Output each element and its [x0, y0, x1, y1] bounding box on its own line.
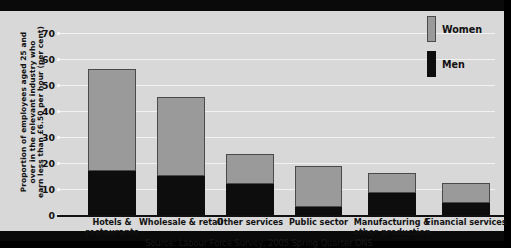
- bar-segment-women: [295, 166, 342, 208]
- chart-panel: Proportion of employees aged 25 and over…: [0, 11, 504, 231]
- source-note: Source: Labour Force Survey, 2005 Spring…: [0, 238, 504, 248]
- y-axis-tick-label: 10: [33, 185, 55, 194]
- y-axis-tick-dot: [57, 32, 60, 35]
- bar-segment-men: [295, 207, 342, 215]
- y-axis-tick-label: 30: [33, 133, 55, 142]
- legend-item-women: Women: [427, 16, 503, 42]
- legend-label-women: Women: [442, 24, 482, 35]
- bar-segment-men: [157, 176, 205, 215]
- source-note-text: Source: Labour Force Survey, 2005 Spring…: [131, 238, 372, 248]
- bar-1: [88, 69, 136, 215]
- y-axis-tick-dot: [57, 58, 60, 61]
- bar-segment-men: [442, 203, 490, 215]
- y-axis-tick-dot: [57, 110, 60, 113]
- bar-segment-men: [88, 171, 136, 215]
- bar-5: [368, 173, 416, 215]
- bar-segment-women: [226, 154, 274, 184]
- legend-item-men: Men: [427, 51, 503, 77]
- bar-segment-women: [368, 173, 416, 193]
- chart-legend: Women Men: [427, 16, 503, 86]
- y-axis-tick-labels: 010203040506070: [25, 11, 55, 215]
- y-axis-tick-label: 60: [33, 55, 55, 64]
- legend-swatch-men: [427, 51, 436, 77]
- bar-6: [442, 183, 490, 215]
- y-axis-tick-dot: [57, 84, 60, 87]
- y-axis-tick-label: 50: [33, 81, 55, 90]
- y-axis-tick-label: 0: [33, 211, 55, 220]
- bar-segment-women: [88, 69, 136, 170]
- y-axis-tick-dot: [57, 162, 60, 165]
- bar-segment-men: [226, 184, 274, 215]
- bar-3: [226, 154, 274, 215]
- legend-swatch-women: [427, 16, 436, 42]
- x-axis-category-label: Financial services: [416, 218, 511, 228]
- bar-4: [295, 166, 342, 215]
- y-axis-tick-dot: [57, 136, 60, 139]
- bar-segment-women: [157, 97, 205, 176]
- legend-label-men: Men: [442, 59, 465, 70]
- bar-2: [157, 97, 205, 215]
- bar-segment-men: [368, 193, 416, 215]
- y-axis-tick-dot: [57, 188, 60, 191]
- y-axis-tick-label: 40: [33, 107, 55, 116]
- y-axis-tick-label: 20: [33, 159, 55, 168]
- bar-segment-women: [442, 183, 490, 203]
- y-axis-tick-label: 70: [33, 29, 55, 38]
